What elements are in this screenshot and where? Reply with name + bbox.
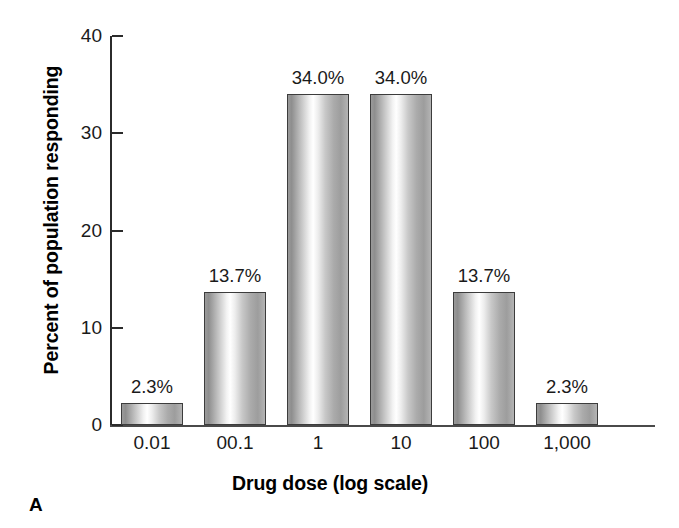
- y-tick-label: 40: [52, 26, 102, 45]
- y-tick-label: 30: [52, 123, 102, 142]
- y-tick-label: 0: [52, 415, 102, 434]
- panel-letter: A: [29, 495, 43, 515]
- x-tick-label: 1,000: [522, 432, 612, 453]
- bar: [204, 292, 266, 425]
- bar: [453, 292, 515, 425]
- y-tick-mark: [112, 327, 123, 329]
- x-axis-title: Drug dose (log scale): [110, 472, 550, 495]
- figure-panel: Percent of population responding 0102030…: [0, 0, 679, 528]
- bar-value-label: 2.3%: [107, 377, 197, 396]
- y-axis-line: [110, 36, 112, 427]
- x-tick-label: 1: [273, 432, 363, 453]
- bar: [121, 403, 183, 425]
- y-tick-label-text: 20: [58, 221, 102, 240]
- bar-value-label: 2.3%: [522, 377, 612, 396]
- bar-value-label: 13.7%: [439, 266, 529, 285]
- bar-value-label: 34.0%: [356, 68, 446, 87]
- y-tick-mark: [112, 230, 123, 232]
- y-tick-label-text: 40: [58, 26, 102, 45]
- x-axis-line: [110, 425, 655, 427]
- y-tick-label: 10: [52, 318, 102, 337]
- y-tick-label-text: 30: [58, 123, 102, 142]
- y-tick-label-text: 0: [58, 415, 102, 434]
- y-tick-label-text: 10: [58, 318, 102, 337]
- bar-value-label: 13.7%: [190, 266, 280, 285]
- x-tick-label: 100: [439, 432, 529, 453]
- bar: [536, 403, 598, 425]
- y-tick-mark: [112, 132, 123, 134]
- bar-value-label: 34.0%: [273, 68, 363, 87]
- bar: [370, 94, 432, 425]
- x-tick-label: 10: [356, 432, 446, 453]
- x-tick-label: 00.1: [190, 432, 280, 453]
- y-tick-label: 20: [52, 221, 102, 240]
- y-tick-mark: [112, 35, 123, 37]
- bar: [287, 94, 349, 425]
- x-tick-label: 0.01: [107, 432, 197, 453]
